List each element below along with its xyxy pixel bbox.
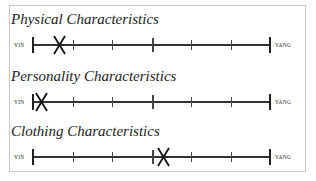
scale-title: Clothing Characteristics: [11, 123, 160, 140]
scale-end-cap: [269, 149, 271, 165]
yin-yang-scale: YINYANG: [0, 147, 316, 167]
scale-tick: [73, 97, 74, 107]
scale-end-cap: [269, 37, 271, 53]
scale-tick: [112, 97, 113, 107]
x-mark-icon: [155, 147, 175, 167]
scale-end-cap: [269, 94, 271, 110]
scale-start-cap: [32, 149, 34, 165]
scale-title: Personality Characteristics: [11, 68, 176, 85]
scale-midpoint-tick: [152, 150, 154, 164]
yin-yang-scale: YINYANG: [0, 35, 316, 55]
yang-label: YANG: [275, 42, 291, 48]
scale-tick: [231, 97, 232, 107]
scale-tick: [73, 40, 74, 50]
scale-midpoint-tick: [152, 95, 154, 109]
scale-tick: [112, 152, 113, 162]
scale-start-cap: [32, 37, 34, 53]
scale-tick: [112, 40, 113, 50]
yang-label: YANG: [275, 99, 291, 105]
scale-tick: [231, 40, 232, 50]
scale-tick: [191, 152, 192, 162]
scale-midpoint-tick: [152, 38, 154, 52]
scale-tick: [191, 40, 192, 50]
scale-tick: [73, 152, 74, 162]
x-mark-icon: [51, 35, 71, 55]
scale-tick: [231, 152, 232, 162]
yin-label: YIN: [14, 154, 24, 160]
yang-label: YANG: [275, 154, 291, 160]
scale-tick: [191, 97, 192, 107]
yin-label: YIN: [14, 99, 24, 105]
yin-yang-scale: YINYANG: [0, 92, 316, 112]
scale-title: Physical Characteristics: [11, 11, 159, 28]
yin-label: YIN: [14, 42, 24, 48]
x-mark-icon: [33, 92, 53, 112]
